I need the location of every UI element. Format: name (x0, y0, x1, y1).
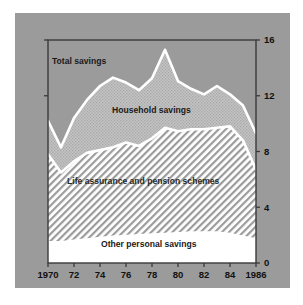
x-axis-tick-label: 76 (121, 269, 132, 280)
x-axis-tick-label: 80 (173, 269, 184, 280)
plot-area (48, 40, 256, 263)
annotation-household-savings: Household savings (112, 105, 191, 115)
y-axis-tick-label: 8 (264, 146, 269, 157)
stacked-area-chart: 0481216 1970727476788082841986 Total sav… (0, 0, 303, 305)
y-axis-tick-label: 4 (264, 202, 270, 213)
x-axis-ticks: 1970727476788082841986 (37, 263, 266, 280)
y-axis-tick-label: 0 (264, 257, 269, 268)
annotation-other-personal-savings: Other personal savings (101, 239, 197, 249)
annotation-total-savings: Total savings (52, 56, 107, 66)
y-axis-tick-label: 12 (264, 90, 275, 101)
annotation-life-assurance: Life assurance and pension schemes (67, 176, 220, 186)
x-axis-tick-label: 82 (199, 269, 210, 280)
x-axis-tick-label: 74 (95, 269, 106, 280)
x-axis-tick-label: 1986 (245, 269, 266, 280)
x-axis-tick-label: 1970 (37, 269, 58, 280)
x-axis-tick-label: 84 (225, 269, 236, 280)
x-axis-tick-label: 78 (147, 269, 158, 280)
x-axis-tick-label: 72 (69, 269, 80, 280)
chart-figure: 0481216 1970727476788082841986 Total sav… (0, 0, 303, 305)
y-axis-tick-label: 16 (264, 34, 275, 45)
